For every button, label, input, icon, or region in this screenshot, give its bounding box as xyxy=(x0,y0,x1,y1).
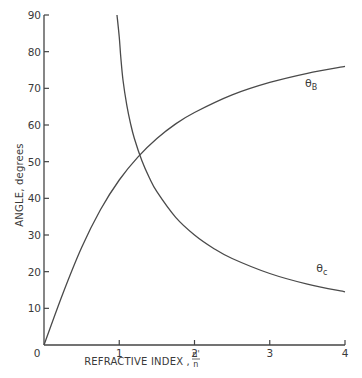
series-labels: θBθc xyxy=(305,77,327,277)
x-axis-label-numerator: n' xyxy=(192,350,200,359)
series-curve-theta-c xyxy=(117,15,345,292)
x-axis: 01234 xyxy=(34,340,349,359)
y-tick-label: 10 xyxy=(28,302,41,314)
y-axis: 102030405060708090 xyxy=(28,9,49,345)
y-tick-label: 50 xyxy=(28,156,41,168)
y-tick-label: 80 xyxy=(28,46,41,58)
series-label-theta-b: θB xyxy=(305,77,317,92)
y-tick-label: 70 xyxy=(28,82,41,94)
y-tick-label: 30 xyxy=(28,229,41,241)
y-axis-label: ANGLE, degrees xyxy=(14,143,25,226)
x-tick-label: 0 xyxy=(34,347,41,359)
y-tick-label: 20 xyxy=(28,266,41,278)
x-tick-label: 3 xyxy=(266,347,273,359)
x-axis-label-text: REFRACTIVE INDEX , xyxy=(84,356,190,367)
refractive-index-angle-chart: 102030405060708090 01234 θBθc ANGLE, deg… xyxy=(0,0,362,378)
curves xyxy=(44,15,345,345)
y-tick-label: 40 xyxy=(28,192,41,204)
series-curve-theta-b xyxy=(44,66,345,345)
series-label-theta-c: θc xyxy=(316,262,327,277)
y-tick-label: 60 xyxy=(28,119,41,131)
x-tick-label: 4 xyxy=(342,347,349,359)
x-axis-label: REFRACTIVE INDEX , n' n xyxy=(84,350,200,369)
y-tick-label: 90 xyxy=(28,9,41,21)
x-axis-label-denominator: n xyxy=(193,360,198,369)
